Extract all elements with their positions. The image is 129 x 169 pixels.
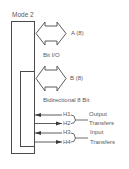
port-a-description: Bit I/O bbox=[43, 52, 60, 59]
port-b-bus-arrow-icon bbox=[36, 66, 66, 91]
h1-label: H1 bbox=[63, 111, 71, 118]
port-a-bus-arrow-icon bbox=[36, 22, 66, 45]
input-transfers-label-line1: Input bbox=[90, 129, 103, 136]
h2-label: H2 bbox=[63, 120, 71, 127]
inner-block bbox=[21, 72, 35, 147]
port-b-description: Bidirectional 8 Bit bbox=[43, 97, 89, 104]
outer-block bbox=[12, 22, 35, 154]
output-brace-icon bbox=[71, 115, 88, 124]
h4-label: H4 bbox=[63, 139, 71, 146]
port-a-label: A (8) bbox=[71, 30, 84, 37]
h3-label: H3 bbox=[63, 129, 71, 136]
h1-arrow-icon bbox=[35, 113, 62, 117]
output-transfers-label-line1: Output bbox=[89, 111, 107, 118]
h3-arrow-icon bbox=[35, 131, 62, 135]
h2-arrow-icon bbox=[35, 122, 62, 126]
h4-arrow-icon bbox=[35, 140, 62, 144]
input-brace-icon bbox=[71, 133, 88, 142]
input-transfers-label-line2: Transfers bbox=[90, 139, 115, 146]
output-transfers-label-line2: Transfers bbox=[89, 120, 114, 127]
diagram-title: Mode 2 bbox=[12, 11, 34, 18]
port-b-label: B (8) bbox=[70, 75, 83, 82]
